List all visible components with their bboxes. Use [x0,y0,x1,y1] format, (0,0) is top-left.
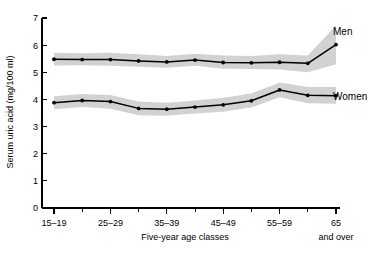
data-point-marker [250,99,254,103]
data-point-marker [250,61,254,65]
data-point-marker [165,60,169,64]
data-point-marker [334,43,338,47]
x-axis-tick-label: 25–29 [98,218,123,228]
x-axis-title: Five-year age classes [141,232,229,242]
x-axis-tick-label: 15–19 [41,218,66,228]
data-point-marker [137,106,141,110]
x-axis-tick-label: 55–59 [267,218,292,228]
data-point-marker [278,88,282,92]
y-axis-tick-label: 5 [33,68,38,78]
x-axis-last-tick-sublabel: and over [318,232,353,242]
y-axis-tick-label: 3 [33,122,38,132]
serum-uric-acid-chart: 01234567 15–1925–2935–3945–4955–5965 Men… [0,0,368,260]
data-point-marker [80,58,84,62]
y-axis-tick-label: 0 [33,203,38,213]
data-point-marker [306,93,310,97]
series-label-men: Men [333,26,352,37]
data-point-marker [165,107,169,111]
data-point-marker [109,58,113,62]
data-point-marker [221,61,225,65]
data-point-marker [221,103,225,107]
data-point-marker [52,57,56,61]
y-axis-tick-label: 1 [33,176,38,186]
data-point-marker [52,101,56,105]
data-point-marker [193,58,197,62]
data-point-marker [193,105,197,109]
y-axis-title: Serum uric acid (mg/100 ml) [5,55,15,168]
data-point-marker [306,61,310,65]
data-point-marker [137,59,141,63]
data-point-marker [109,100,113,104]
x-axis-tick-label: 35–39 [154,218,179,228]
data-point-marker [278,60,282,64]
series-label-women: Women [333,91,367,102]
y-axis-tick-label: 7 [33,13,38,23]
y-axis-tick-label: 2 [33,149,38,159]
data-point-marker [80,99,84,103]
x-axis-tick-label: 45–49 [211,218,236,228]
y-axis-tick-label: 6 [33,41,38,51]
y-axis-tick-label: 4 [33,95,38,105]
x-axis-tick-label: 65 [331,218,341,228]
